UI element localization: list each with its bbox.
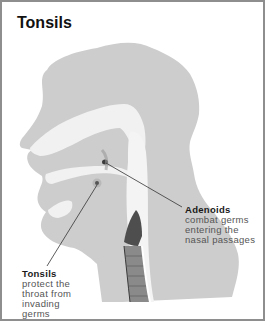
tonsils-description: protect the throat from invading germs	[22, 279, 71, 319]
diagram-frame: Tonsils Adenoids combat germs entering t…	[0, 0, 265, 321]
diagram-title: Tonsils	[17, 14, 72, 32]
adenoids-label: Adenoids combat germs entering the nasal…	[185, 205, 255, 245]
adenoids-description: combat germs entering the nasal passages	[185, 215, 255, 245]
tonsils-label: Tonsils protect the throat from invading…	[22, 269, 71, 319]
